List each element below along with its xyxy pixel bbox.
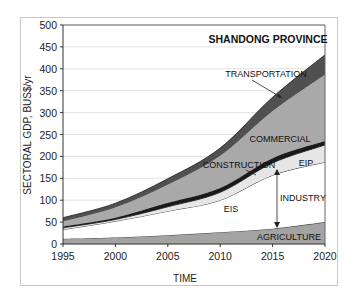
x-tick-label: 2020 bbox=[313, 250, 337, 262]
x-tick-label: 1995 bbox=[51, 250, 75, 262]
x-tick-label: 2015 bbox=[261, 250, 285, 262]
label-construction: CONSTRUCTION bbox=[203, 160, 276, 170]
label-eip: EIP bbox=[299, 158, 314, 168]
transportation-arrow bbox=[252, 80, 282, 98]
x-tick-label: 2000 bbox=[104, 250, 128, 262]
y-tick-label: 250 bbox=[39, 129, 57, 141]
label-commercial: COMMERCIAL bbox=[249, 134, 310, 144]
x-tick-label: 2010 bbox=[209, 250, 233, 262]
y-tick-label: 200 bbox=[39, 150, 57, 162]
y-tick-label: 0 bbox=[51, 238, 57, 250]
y-tick-label: 450 bbox=[39, 41, 57, 53]
y-tick-label: 350 bbox=[39, 85, 57, 97]
y-tick-label: 400 bbox=[39, 63, 57, 75]
x-axis-title: TIME bbox=[173, 273, 197, 284]
x-tick-label: 2005 bbox=[156, 250, 180, 262]
y-tick-label: 100 bbox=[39, 194, 57, 206]
y-tick-label: 150 bbox=[39, 172, 57, 184]
y-tick-label: 300 bbox=[39, 107, 57, 119]
label-transportation: TRANSPORTATION bbox=[225, 69, 307, 79]
label-agriculture: AGRICULTURE bbox=[257, 232, 321, 242]
label-eis: EIS bbox=[224, 204, 239, 214]
stacked-area-chart: 0501001502002503003504004505001995200020… bbox=[0, 0, 358, 303]
label-industry: INDUSTRY bbox=[280, 193, 326, 203]
chart-title: SHANDONG PROVINCE bbox=[208, 33, 327, 45]
y-tick-label: 50 bbox=[45, 216, 57, 228]
y-axis-title: SECTORAL GDP, BUS$/yr bbox=[22, 75, 33, 195]
y-tick-label: 500 bbox=[39, 19, 57, 31]
area-series bbox=[63, 55, 325, 244]
